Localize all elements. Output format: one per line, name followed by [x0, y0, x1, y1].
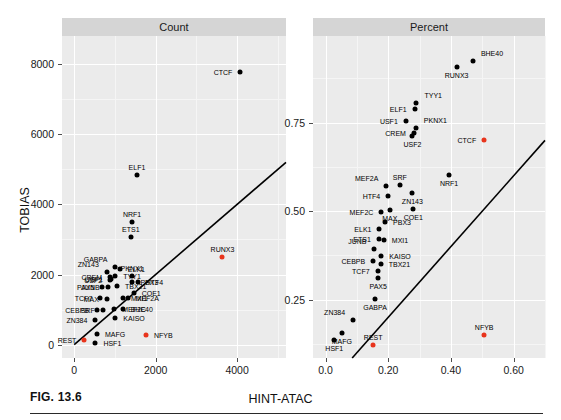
scatter-point-label: HSF1 — [103, 339, 121, 346]
scatter-point-label: ETS1 — [122, 225, 140, 232]
facet-strip-count: Count — [62, 18, 286, 36]
scatter-point — [412, 106, 417, 111]
scatter-point-label: HSF1 — [325, 344, 343, 351]
scatter-point — [114, 284, 119, 289]
figure-13-6: TOBIAS HINT-ATAC Count CTCFELF1NRF1ETS1R… — [0, 0, 561, 420]
scatter-point — [128, 234, 133, 239]
scatter-point — [411, 206, 416, 211]
x-axis-tickmark — [74, 358, 75, 362]
scatter-point-label: ELF1 — [129, 163, 146, 170]
scatter-point-label: KAISO — [123, 315, 144, 322]
y-axis-tick-label: 0.75 — [243, 117, 305, 129]
scatter-point — [332, 337, 337, 342]
scatter-point-label: CEBPB — [341, 257, 365, 264]
scatter-point — [447, 173, 452, 178]
x-axis-title: HINT-ATAC — [0, 392, 561, 406]
scatter-point-label: MEF2C — [350, 209, 374, 216]
facet-strip-label: Count — [159, 21, 188, 33]
scatter-point — [377, 227, 382, 232]
scatter-point — [376, 276, 381, 281]
scatter-point-label: MAX — [84, 296, 99, 303]
scatter-point-label: ZN384 — [324, 308, 345, 315]
scatter-point-label: PAX5 — [370, 283, 387, 290]
scatter-point-label: RUNX3 — [211, 245, 235, 252]
scatter-point — [108, 278, 113, 283]
scatter-point-label: TCF7 — [352, 268, 370, 275]
scatter-point — [403, 119, 408, 124]
scatter-point — [383, 219, 388, 224]
scatter-point-label: GABPA — [363, 303, 387, 310]
x-axis-tick-label: 0.40 — [421, 364, 481, 376]
scatter-point-label: ELK1 — [354, 226, 371, 233]
y-axis-tick-label: 0.25 — [243, 294, 305, 306]
x-axis-tick-label: 0.60 — [484, 364, 544, 376]
scatter-point-label: NRF1 — [123, 211, 141, 218]
scatter-point — [454, 65, 459, 70]
scatter-point — [220, 254, 225, 259]
reference-line — [313, 36, 545, 358]
scatter-point — [105, 285, 110, 290]
x-axis-tick-label: 4000 — [207, 364, 267, 376]
scatter-point-label: REST — [58, 337, 77, 344]
scatter-point-label: ZN384 — [66, 317, 87, 324]
scatter-point — [379, 210, 384, 215]
scatter-point — [93, 340, 98, 345]
scatter-point — [238, 69, 243, 74]
gridline-vertical-minor — [545, 36, 546, 358]
scatter-point — [95, 332, 100, 337]
y-axis-tick-label: 2000 — [0, 269, 54, 281]
scatter-point-label: TBX21 — [389, 261, 410, 268]
scatter-point-label: BHE40 — [131, 306, 153, 313]
y-axis-tick-label: 6000 — [0, 128, 54, 140]
scatter-point-label: PKNX1 — [424, 117, 447, 124]
scatter-point-label: KAISO — [389, 252, 410, 259]
scatter-point-label: MEF2A — [136, 295, 159, 302]
x-axis-tick-label: 0 — [44, 364, 104, 376]
scatter-point-label: JUNB — [81, 284, 99, 291]
scatter-point — [104, 269, 109, 274]
scatter-point-label: SRF — [81, 306, 95, 313]
y-axis-tick-label: 4000 — [0, 198, 54, 210]
scatter-point — [387, 208, 392, 213]
y-axis-tickmark — [58, 275, 62, 276]
scatter-point — [95, 307, 100, 312]
x-axis-tick-label: 0.20 — [358, 364, 418, 376]
scatter-point — [130, 220, 135, 225]
scatter-point — [100, 307, 105, 312]
scatter-point — [470, 58, 475, 63]
scatter-point — [104, 297, 109, 302]
scatter-point-label: PKNX1 — [121, 264, 144, 271]
scatter-point-label: CTCF — [214, 68, 233, 75]
scatter-point — [482, 333, 487, 338]
scatter-panel-percent: BHE40RUNX3TYY1ELF1USF1PKNX1CREMUSF2CTCFN… — [313, 36, 545, 358]
y-axis-tickmark — [309, 211, 313, 212]
scatter-point-label: TYY1 — [424, 91, 442, 98]
scatter-point-label: REST — [364, 333, 383, 340]
scatter-point — [372, 247, 377, 252]
scatter-point-label: CREM — [385, 129, 406, 136]
scatter-point-label: RUNX3 — [445, 72, 469, 79]
x-axis-tickmark — [514, 358, 515, 362]
x-axis-tickmark — [451, 358, 452, 362]
scatter-point — [384, 183, 389, 188]
scatter-point-label: NFYB — [475, 324, 494, 331]
x-axis-tick-label: 2000 — [126, 364, 186, 376]
x-axis-tickmark — [388, 358, 389, 362]
y-axis-tickmark — [309, 300, 313, 301]
scatter-point-label: ZN143 — [402, 198, 423, 205]
scatter-point — [125, 296, 130, 301]
scatter-point — [112, 306, 117, 311]
scatter-point — [113, 316, 118, 321]
scatter-point-label: ELF1 — [390, 105, 407, 112]
y-axis-tickmark — [309, 123, 313, 124]
y-axis-tick-label: 8000 — [0, 58, 54, 70]
scatter-point — [397, 182, 402, 187]
x-axis-tickmark — [326, 358, 327, 362]
scatter-point-label: NRF1 — [440, 180, 458, 187]
scatter-point — [351, 317, 356, 322]
y-axis-tickmark — [58, 134, 62, 135]
scatter-point — [93, 318, 98, 323]
scatter-point-label: BHE40 — [481, 49, 503, 56]
scatter-point — [371, 342, 376, 347]
scatter-point-label: PBX3 — [393, 218, 411, 225]
